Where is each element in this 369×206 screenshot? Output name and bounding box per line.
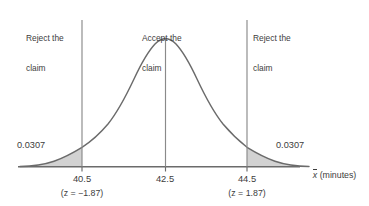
left-rejection-region-label: Reject the claim xyxy=(26,14,64,93)
left-tail-area-value: 0.0307 xyxy=(17,140,45,151)
x-tick-label-center: 42.5 xyxy=(145,173,185,184)
x-bar-symbol: x xyxy=(313,170,317,180)
acceptance-region-label: Accept the claim xyxy=(142,14,182,93)
left-rejection-label-line1: Reject the xyxy=(26,34,64,44)
right-rejection-label-line2: claim xyxy=(253,64,291,74)
acceptance-label-line1: Accept the xyxy=(142,34,182,44)
x-tick-label-left: 40.5 xyxy=(62,173,102,184)
x-axis-label: x (minutes) xyxy=(303,160,356,191)
normal-distribution-chart: Reject the claim Accept the claim Reject… xyxy=(0,0,369,206)
right-tail-area-value: 0.0307 xyxy=(276,140,304,151)
right-rejection-region-label: Reject the claim xyxy=(253,14,291,93)
z-value-label-left: (z = −1.87) xyxy=(50,188,114,198)
x-axis-units-text: (minutes) xyxy=(320,170,357,180)
left-rejection-label-line2: claim xyxy=(26,64,64,74)
x-tick-label-right: 44.5 xyxy=(227,173,267,184)
acceptance-label-line2: claim xyxy=(142,64,182,74)
z-value-label-right: (z = 1.87) xyxy=(217,188,277,198)
right-rejection-label-line1: Reject the xyxy=(253,34,291,44)
